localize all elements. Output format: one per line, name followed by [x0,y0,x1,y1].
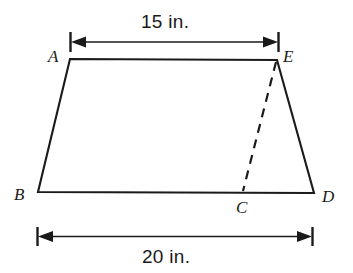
bottom-dimension-arrowhead-left [38,231,53,242]
top-dimension-arrowhead-left [71,37,86,48]
vertex-label-d: D [322,188,334,205]
vertex-label-b: B [14,186,24,203]
bottom-dimension-arrowhead-right [297,231,312,242]
diagonal-EC-dashed [243,62,276,191]
top-dimension-label: 15 in. [141,12,189,31]
figure-canvas [0,0,353,273]
vertex-label-c: C [236,199,247,216]
vertex-label-e: E [283,48,293,65]
bottom-dimension-label: 20 in. [142,247,190,266]
top-dimension-arrowhead-right [263,37,278,48]
geometry-figure: A E B C D 15 in. 20 in. [0,0,353,273]
vertex-label-a: A [48,48,58,65]
